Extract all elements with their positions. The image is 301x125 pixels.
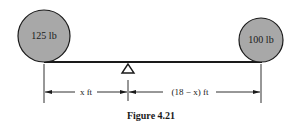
seesaw-diagram: 125 lb 100 lb x ft (18 − x) ft Figure 4.… (0, 0, 301, 125)
right-weight-label: 100 lb (248, 34, 273, 45)
arrow-left-icon (45, 90, 52, 94)
arrow-left-icon (129, 90, 136, 94)
left-dimension: x ft (45, 87, 127, 97)
right-dimension: (18 − x) ft (129, 87, 260, 97)
figure-caption: Figure 4.21 (127, 110, 175, 121)
fulcrum-triangle-icon (122, 64, 134, 73)
arrow-right-icon (120, 90, 127, 94)
arrow-right-icon (253, 90, 260, 94)
right-weight: 100 lb (239, 18, 283, 62)
left-weight: 125 lb (18, 10, 70, 62)
right-dimension-label: (18 − x) ft (172, 87, 209, 97)
left-weight-label: 125 lb (31, 30, 56, 41)
left-dimension-label: x ft (80, 87, 93, 97)
